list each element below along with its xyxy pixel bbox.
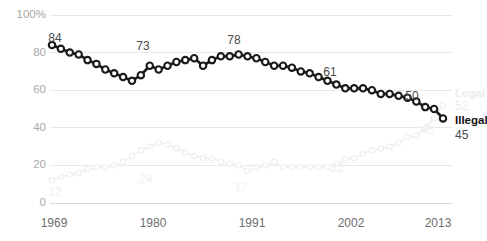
- data-point: [235, 51, 241, 57]
- data-point: [102, 66, 108, 72]
- data-point: [85, 167, 90, 172]
- annotation-legal-12: 12: [48, 185, 62, 199]
- data-point: [387, 144, 392, 149]
- data-point: [67, 49, 73, 55]
- x-tick-2013: 2013: [425, 216, 452, 230]
- data-point: [280, 63, 286, 69]
- data-point: [191, 55, 197, 61]
- legend-value-legal: 52: [455, 99, 469, 113]
- data-point: [378, 91, 384, 97]
- data-point: [325, 165, 330, 170]
- data-point: [432, 116, 437, 121]
- data-point: [405, 135, 410, 140]
- annotation-illegal-50: 50: [405, 89, 419, 103]
- data-point: [84, 57, 90, 63]
- data-point: [67, 172, 72, 177]
- data-point: [386, 91, 392, 97]
- x-axis: 1969 1980 1991 2002 2013: [41, 216, 452, 230]
- data-point: [236, 163, 241, 168]
- data-point: [227, 161, 232, 166]
- data-point: [395, 93, 401, 99]
- data-point: [147, 144, 152, 149]
- data-point: [253, 55, 259, 61]
- y-tick-0: 0: [40, 196, 46, 208]
- annotation-illegal-78: 78: [227, 33, 241, 47]
- annotation-legal-32: 32: [330, 161, 344, 175]
- x-tick-2002: 2002: [338, 216, 365, 230]
- data-point: [200, 155, 205, 160]
- line-chart: 100% 80 60 40 20 0 1969 1980 1991 2002 2…: [0, 0, 487, 241]
- data-point: [360, 152, 365, 157]
- x-tick-1969: 1969: [41, 216, 68, 230]
- data-point: [156, 140, 161, 145]
- annotation-illegal-73: 73: [136, 39, 150, 53]
- data-point: [254, 165, 259, 170]
- data-point: [351, 85, 357, 91]
- data-point: [192, 153, 197, 158]
- series-illegal-markers: [49, 42, 446, 122]
- data-point: [93, 61, 99, 67]
- legend-value-illegal: 45: [455, 128, 469, 142]
- annotation-legal-24: 24: [139, 172, 153, 186]
- data-point: [262, 59, 268, 65]
- data-point: [209, 57, 215, 63]
- series-legal-annotations: 12 24 17 32 45: [48, 123, 434, 199]
- data-point: [280, 165, 285, 170]
- x-tick-1980: 1980: [140, 216, 167, 230]
- data-point: [342, 85, 348, 91]
- data-point: [174, 146, 179, 151]
- series-legal-markers: [49, 103, 445, 183]
- y-tick-20: 20: [33, 158, 46, 170]
- data-point: [289, 165, 294, 170]
- data-point: [289, 64, 295, 70]
- data-point: [263, 163, 268, 168]
- data-point: [218, 159, 223, 164]
- data-point: [120, 159, 125, 164]
- data-point: [440, 115, 446, 121]
- data-point: [164, 63, 170, 69]
- data-point: [112, 163, 117, 168]
- y-tick-40: 40: [33, 121, 46, 133]
- data-point: [307, 70, 313, 76]
- data-point: [58, 46, 64, 52]
- data-point: [414, 133, 419, 138]
- data-point: [209, 155, 214, 160]
- data-point: [155, 66, 161, 72]
- y-axis: 100% 80 60 40 20 0: [17, 8, 46, 208]
- data-point: [182, 57, 188, 63]
- data-point: [111, 70, 117, 76]
- data-point: [378, 146, 383, 151]
- x-tick-1991: 1991: [239, 216, 266, 230]
- data-point: [369, 148, 374, 153]
- data-point: [120, 74, 126, 80]
- legend-label-illegal: Illegal: [455, 114, 487, 126]
- data-point: [369, 87, 375, 93]
- data-point: [333, 81, 339, 87]
- data-point: [200, 63, 206, 69]
- data-point: [271, 63, 277, 69]
- data-point: [183, 150, 188, 155]
- data-point: [75, 51, 81, 57]
- y-tick-80: 80: [33, 46, 46, 58]
- data-point: [129, 78, 135, 84]
- data-point: [138, 72, 144, 78]
- annotation-legal-45: 45: [420, 123, 434, 137]
- gridlines: [50, 15, 452, 203]
- annotation-legal-17: 17: [234, 180, 248, 194]
- data-point: [396, 140, 401, 145]
- data-point: [352, 155, 357, 160]
- data-point: [49, 178, 54, 183]
- y-tick-100: 100%: [17, 8, 46, 20]
- data-point: [147, 63, 153, 69]
- legend-label-legal: Legal: [455, 87, 485, 99]
- legend: Legal 52 Illegal 45: [455, 87, 487, 142]
- annotation-illegal-61: 61: [323, 65, 337, 79]
- data-point: [440, 103, 445, 108]
- data-point: [316, 165, 321, 170]
- data-point: [298, 165, 303, 170]
- data-point: [360, 85, 366, 91]
- y-tick-60: 60: [33, 83, 46, 95]
- data-point: [138, 148, 143, 153]
- series-legal: [49, 103, 445, 183]
- data-point: [307, 165, 312, 170]
